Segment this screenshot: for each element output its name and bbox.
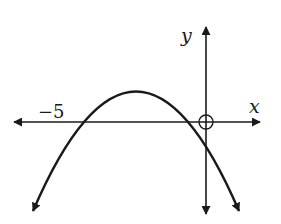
y-axis-label: y (180, 24, 192, 46)
x-axis-label: x (249, 95, 260, 117)
intercept-label-neg5: −5 (38, 101, 65, 122)
graph-canvas: y x −5 (0, 0, 281, 224)
